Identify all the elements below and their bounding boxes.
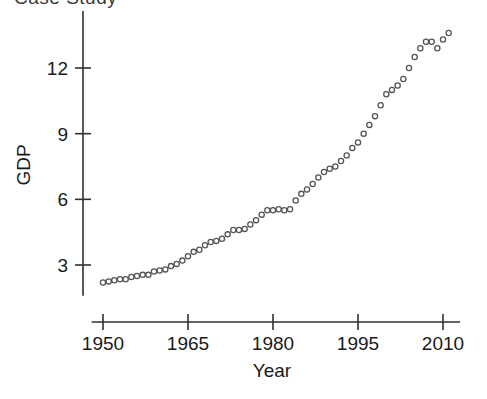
data-point: [208, 239, 213, 244]
x-tick-label: 1995: [337, 333, 379, 354]
data-point: [355, 140, 360, 145]
data-point: [395, 83, 400, 88]
data-point: [157, 268, 162, 273]
data-point: [406, 65, 411, 70]
data-point: [327, 166, 332, 171]
data-point: [316, 175, 321, 180]
data-point: [435, 46, 440, 51]
data-point: [168, 263, 173, 268]
data-point: [367, 122, 372, 127]
data-point: [151, 269, 156, 274]
y-tick-label: 6: [57, 189, 68, 210]
data-point: [214, 238, 219, 243]
data-point: [134, 273, 139, 278]
data-point: [321, 169, 326, 174]
data-point-series: [100, 30, 451, 285]
year-axis: 19501965198019952010: [82, 314, 464, 354]
data-point: [140, 272, 145, 277]
data-point: [248, 222, 253, 227]
data-point: [372, 114, 377, 119]
data-point: [123, 277, 128, 282]
data-point: [270, 208, 275, 213]
data-point: [389, 87, 394, 92]
data-point: [440, 37, 445, 42]
x-tick-label: 1980: [252, 333, 294, 354]
data-point: [197, 247, 202, 252]
data-point: [418, 46, 423, 51]
data-point: [236, 227, 241, 232]
y-tick-label: 9: [57, 124, 68, 145]
data-point: [333, 164, 338, 169]
scatter-plot-canvas: 36912 19501965198019952010 YearGDP: [0, 0, 487, 399]
data-point: [384, 92, 389, 97]
data-point: [163, 267, 168, 272]
data-point: [129, 274, 134, 279]
data-point: [412, 54, 417, 59]
chart-figure: Case Study 36912 19501965198019952010 Ye…: [0, 0, 487, 399]
data-point: [231, 227, 236, 232]
data-point: [361, 131, 366, 136]
data-point: [350, 145, 355, 150]
data-point: [287, 207, 292, 212]
data-point: [338, 158, 343, 163]
data-point: [253, 218, 258, 223]
data-point: [446, 30, 451, 35]
data-point: [265, 208, 270, 213]
data-point: [242, 226, 247, 231]
data-point: [276, 207, 281, 212]
data-point: [429, 39, 434, 44]
data-point: [344, 153, 349, 158]
data-point: [219, 236, 224, 241]
data-point: [180, 258, 185, 263]
data-point: [191, 249, 196, 254]
x-tick-label: 1965: [167, 333, 209, 354]
data-point: [378, 103, 383, 108]
data-point: [146, 272, 151, 277]
gdp-axis: 36912: [47, 11, 91, 296]
x-tick-label: 2010: [422, 333, 464, 354]
data-point: [304, 187, 309, 192]
y-tick-label: 12: [47, 58, 68, 79]
data-point: [112, 278, 117, 283]
y-tick-label: 3: [57, 255, 68, 276]
y-axis-title: GDP: [13, 144, 34, 185]
data-point: [282, 208, 287, 213]
data-point: [185, 254, 190, 259]
data-point: [259, 212, 264, 217]
data-point: [202, 243, 207, 248]
axis-titles: YearGDP: [13, 144, 292, 381]
data-point: [401, 76, 406, 81]
data-point: [106, 279, 111, 284]
data-point: [225, 232, 230, 237]
x-axis-title: Year: [253, 360, 292, 381]
data-point: [174, 261, 179, 266]
data-point: [293, 198, 298, 203]
data-point: [100, 280, 105, 285]
data-point: [310, 181, 315, 186]
data-point: [117, 277, 122, 282]
data-point: [423, 39, 428, 44]
x-tick-label: 1950: [82, 333, 124, 354]
data-point: [299, 191, 304, 196]
